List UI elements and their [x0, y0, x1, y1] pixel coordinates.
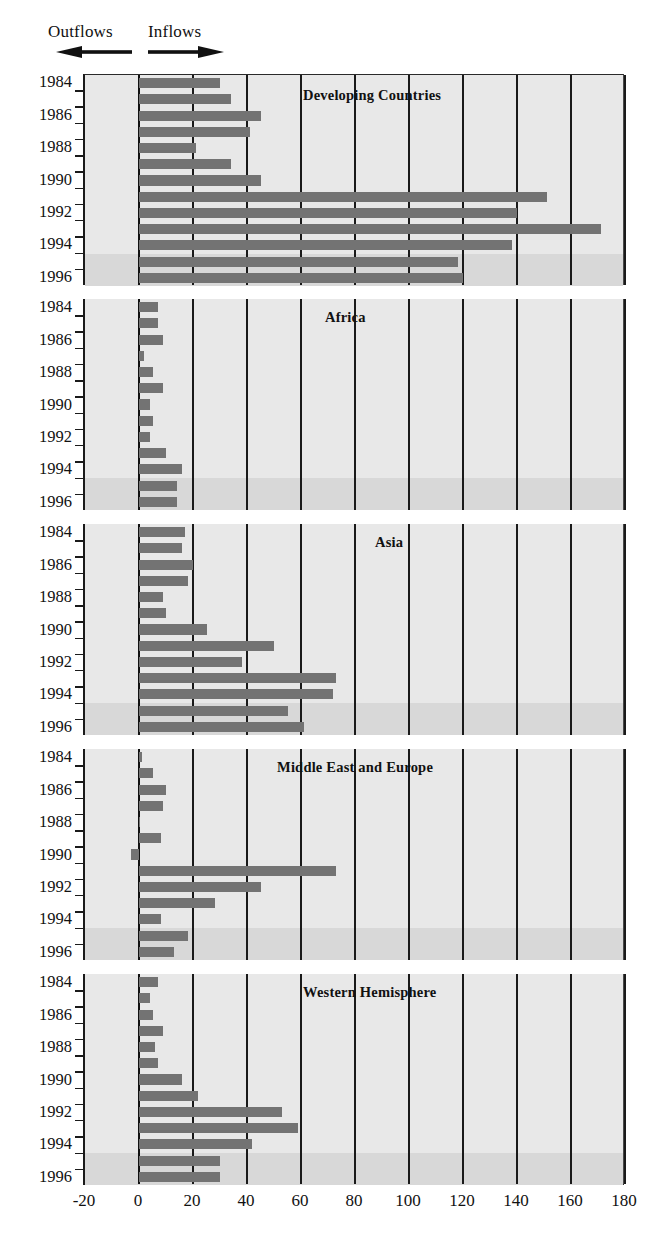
- y-axis-label: 1988: [39, 812, 72, 832]
- y-axis-tick: [75, 253, 84, 254]
- y-axis-tick: [75, 1136, 84, 1137]
- y-axis-tick: [75, 188, 84, 189]
- y-axis-tick: [75, 331, 84, 332]
- bar: [139, 527, 185, 537]
- gridline: [408, 299, 409, 510]
- bar: [139, 351, 144, 361]
- y-axis-label: 1990: [39, 1070, 72, 1090]
- x-axis-label: 120: [449, 1191, 475, 1211]
- chart-panel: 1984198619881990199219941996Developing C…: [0, 74, 649, 285]
- panel-title: Middle East and Europe: [277, 759, 433, 776]
- y-axis-label: 1990: [39, 845, 72, 865]
- gridline: [354, 75, 355, 285]
- chart-panel: 1984198619881990199219941996Western Hemi…: [0, 974, 649, 1185]
- bar: [139, 448, 166, 458]
- bar: [139, 399, 150, 409]
- bar: [139, 817, 140, 827]
- bar: [139, 560, 193, 570]
- y-axis-label: 1994: [39, 684, 72, 704]
- bar: [139, 318, 158, 328]
- y-axis-label: 1986: [39, 330, 72, 350]
- bar: [139, 1042, 155, 1052]
- bar: [139, 1172, 220, 1182]
- gridline: [408, 749, 409, 960]
- y-axis: 1984198619881990199219941996: [0, 299, 84, 510]
- gridline: [624, 974, 625, 1184]
- y-axis-label: 1984: [39, 72, 72, 92]
- y-axis-tick: [75, 621, 84, 622]
- gridline: [246, 299, 247, 510]
- bar: [139, 1058, 158, 1068]
- y-axis-tick: [75, 429, 84, 430]
- bar: [139, 143, 196, 153]
- y-axis-label: 1984: [39, 972, 72, 992]
- inflows-label: Inflows: [148, 22, 201, 42]
- y-axis-tick: [75, 494, 84, 495]
- bar: [139, 624, 207, 634]
- bar: [139, 1026, 163, 1036]
- gridline: [246, 749, 247, 960]
- y-axis-tick: [75, 798, 84, 799]
- y-axis-tick: [75, 830, 84, 831]
- bar: [139, 497, 177, 507]
- gridline: [516, 75, 517, 285]
- bar: [139, 752, 142, 762]
- y-axis-tick: [75, 879, 84, 880]
- x-axis-label: 0: [134, 1191, 143, 1211]
- gridline: [354, 524, 355, 735]
- panel-title: Asia: [375, 534, 403, 551]
- y-axis-tick: [75, 1104, 84, 1105]
- gridline: [300, 299, 301, 510]
- bar: [139, 273, 463, 283]
- gridline: [624, 524, 625, 735]
- chart-canvas: Outflows Inflows 19841986198819901992199…: [0, 0, 649, 1256]
- y-axis-tick: [75, 220, 84, 221]
- y-axis-tick: [75, 846, 84, 847]
- y-axis-tick: [75, 106, 84, 107]
- x-axis-label: 40: [238, 1191, 255, 1211]
- bar: [139, 1091, 198, 1101]
- bar: [139, 641, 274, 651]
- bar: [139, 302, 158, 312]
- gridline: [246, 524, 247, 735]
- gridline: [516, 749, 517, 960]
- x-axis-label: 80: [346, 1191, 363, 1211]
- plot-area: Middle East and Europe: [84, 749, 624, 960]
- plot-area: Africa: [84, 299, 624, 510]
- bar: [139, 657, 242, 667]
- gridline: [624, 75, 625, 285]
- y-axis-tick: [75, 605, 84, 606]
- y-axis-tick: [75, 719, 84, 720]
- y-axis-label: 1992: [39, 652, 72, 672]
- bar: [139, 914, 161, 924]
- bar: [139, 1074, 182, 1084]
- y-axis-tick: [75, 990, 84, 991]
- y-axis-tick: [75, 686, 84, 687]
- y-axis-label: 1994: [39, 459, 72, 479]
- x-axis: -20020406080100120140160180: [84, 1185, 624, 1225]
- y-axis-tick: [75, 911, 84, 912]
- y-axis-tick: [75, 396, 84, 397]
- bar: [139, 931, 188, 941]
- gridline: [300, 524, 301, 735]
- gridline: [192, 299, 193, 510]
- bar: [139, 706, 288, 716]
- y-axis-label: 1988: [39, 137, 72, 157]
- plot-area: Developing Countries: [84, 74, 624, 285]
- gridline: [570, 749, 571, 960]
- gridline: [354, 299, 355, 510]
- bar: [139, 335, 163, 345]
- bar: [139, 464, 182, 474]
- bar: [139, 833, 161, 843]
- bar: [139, 94, 231, 104]
- y-axis-tick: [75, 1088, 84, 1089]
- bar: [131, 849, 139, 859]
- gridline: [354, 974, 355, 1184]
- gridline: [624, 299, 625, 510]
- plot-area: Western Hemisphere: [84, 974, 624, 1185]
- y-axis-tick: [75, 478, 84, 479]
- bar: [139, 1123, 298, 1133]
- bar: [139, 768, 153, 778]
- bar: [139, 1107, 282, 1117]
- y-axis: 1984198619881990199219941996: [0, 974, 84, 1185]
